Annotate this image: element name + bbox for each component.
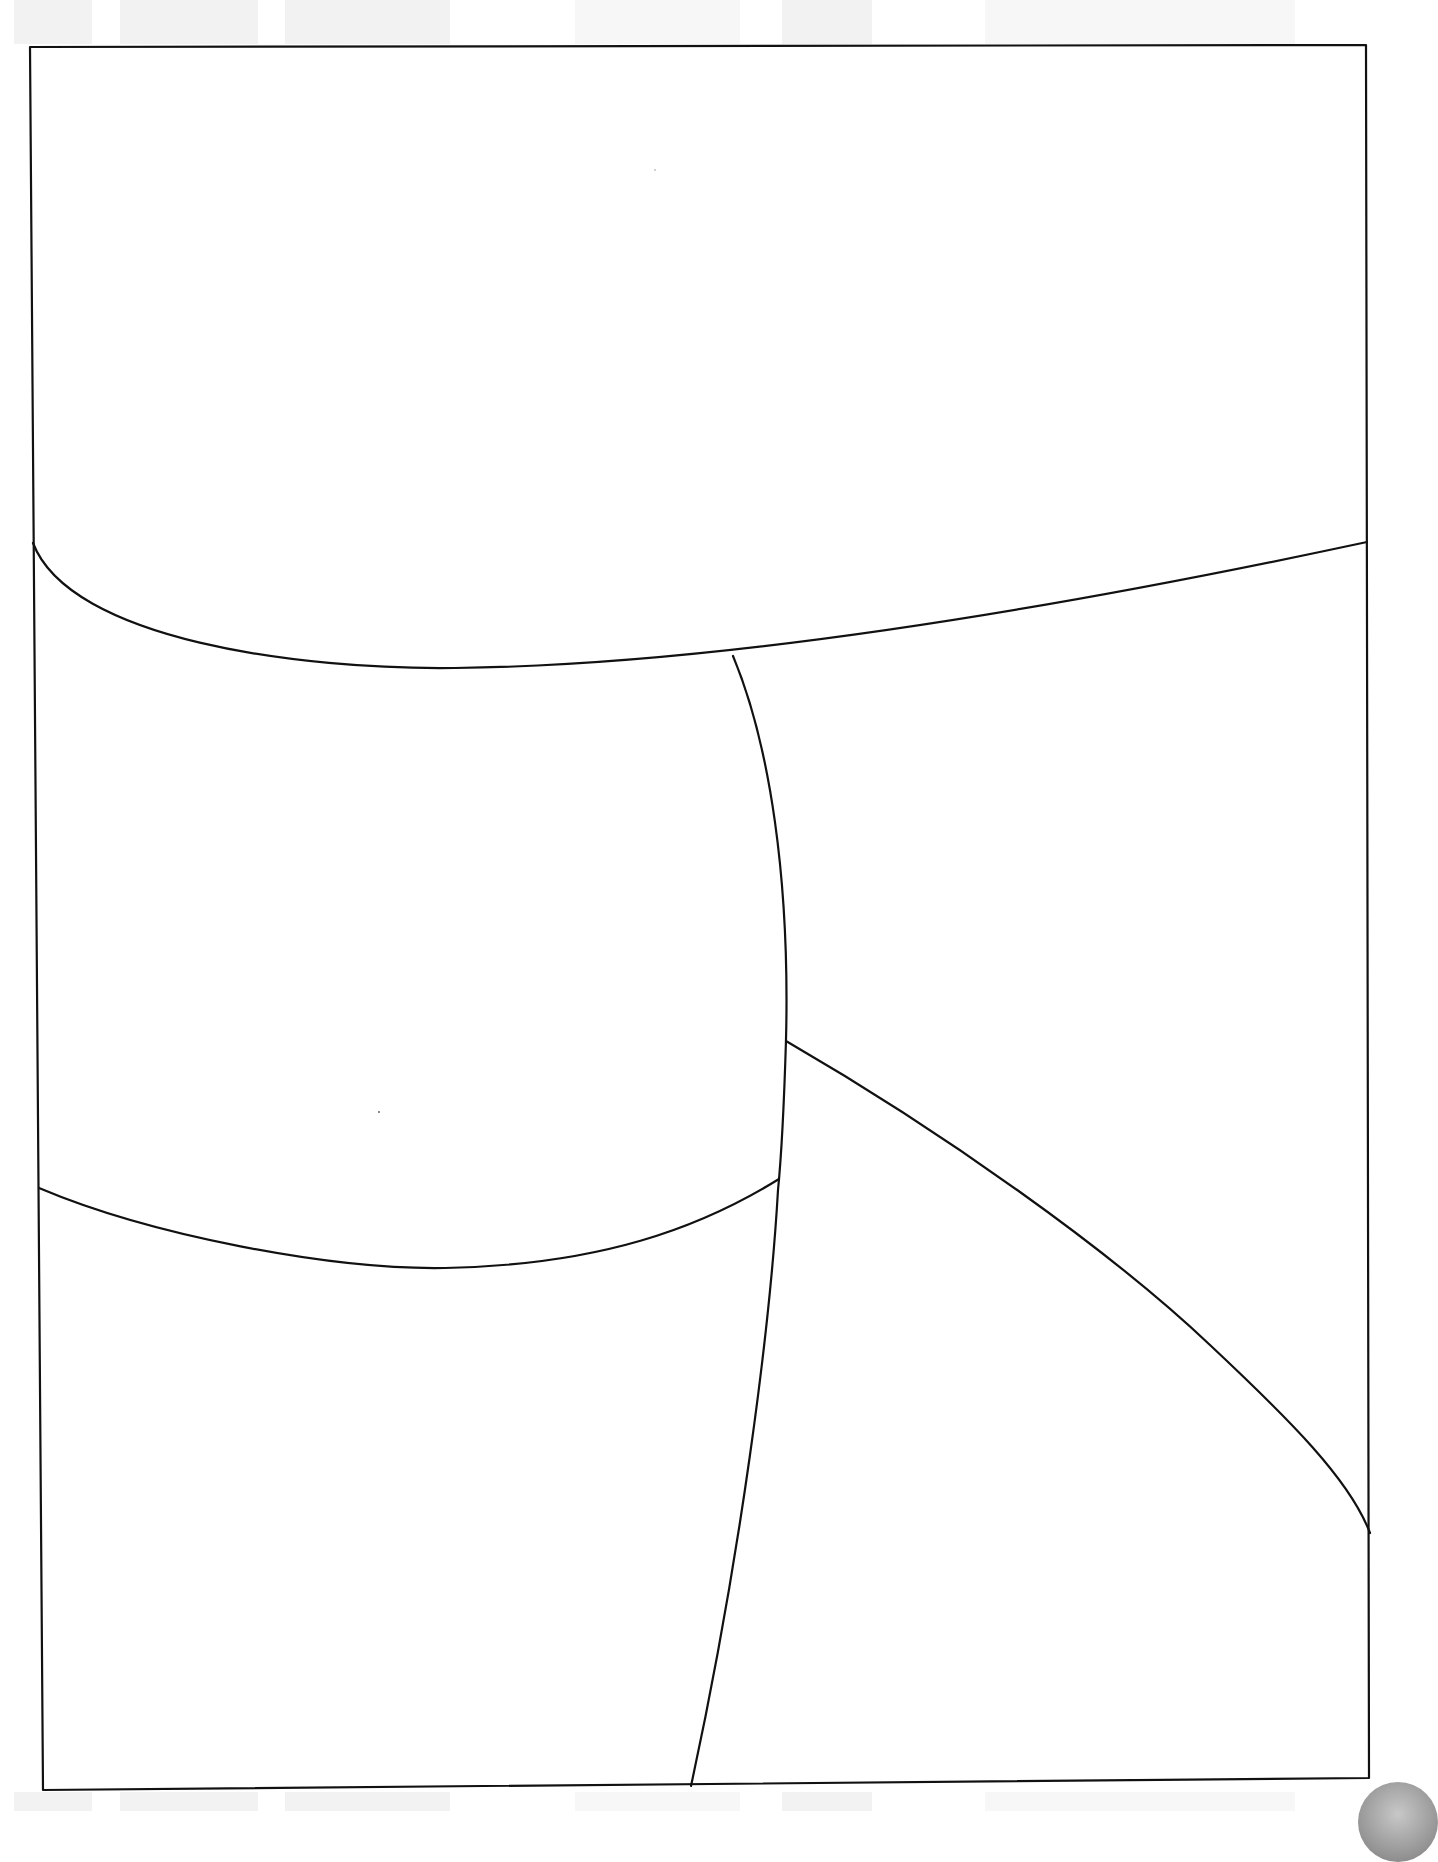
corner-sticker xyxy=(1358,1782,1438,1862)
scan-speck xyxy=(378,1111,380,1113)
scan-speck xyxy=(654,169,656,171)
panel-1-top xyxy=(30,45,1367,668)
panel-4-bottom-left xyxy=(39,1179,779,1790)
